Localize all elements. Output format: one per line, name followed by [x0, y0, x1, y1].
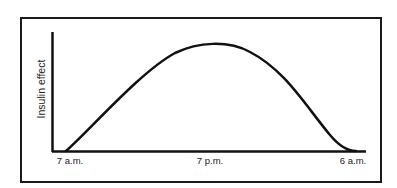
- x-tick-label-start: 7 a.m.: [57, 155, 83, 166]
- x-tick-label-middle: 7 p.m.: [197, 155, 223, 166]
- y-axis-label: Insulin effect: [35, 60, 47, 119]
- insulin-effect-curve: [66, 44, 356, 151]
- x-tick-label-end: 6 a.m.: [340, 155, 366, 166]
